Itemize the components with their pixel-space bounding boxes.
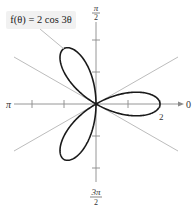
equation-callout: f(θ) = 2 cos 3θ [6,11,76,29]
equation-label: f(θ) = 2 cos 3θ [10,14,71,25]
arrowhead-icon [178,102,184,107]
label-pi: π [6,99,12,110]
polar-plot: 0 π π 2 3π 2 2 [0,0,193,215]
svg-text:2: 2 [94,198,98,207]
svg-text:2: 2 [94,13,98,22]
label-three-pi-half: 3π 2 [90,187,102,207]
label-pi-half: π 2 [92,3,100,22]
label-zero: 0 [186,99,191,110]
svg-text:3π: 3π [90,187,101,197]
callout-leader-line [40,29,64,49]
svg-text:π: π [94,3,99,13]
label-r-two: 2 [159,112,164,122]
